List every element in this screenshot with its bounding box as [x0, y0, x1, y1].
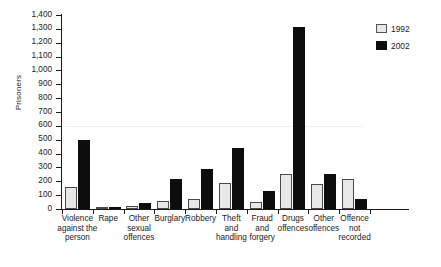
bar-group [308, 15, 339, 209]
bar-2002 [293, 27, 305, 209]
bar-group [339, 15, 370, 209]
category-label-line: forgery [240, 233, 285, 243]
bar-2002 [201, 169, 213, 209]
legend: 1992 2002 [376, 22, 410, 56]
bar-2002 [78, 140, 90, 209]
y-tick-label: 0 [0, 205, 52, 213]
legend-item-2002: 2002 [376, 39, 410, 52]
y-tick-label: 500 [0, 135, 52, 143]
bar-group [185, 15, 216, 209]
y-tick-label: 1,200 [0, 38, 52, 46]
y-tick-label: 900 [0, 80, 52, 88]
bar-1992 [126, 206, 138, 209]
legend-swatch-2002 [376, 41, 387, 50]
y-tick-label: 600 [0, 121, 52, 129]
bar-group [124, 15, 155, 209]
category-label: Offencenotrecorded [332, 214, 377, 243]
plot-area [62, 15, 370, 209]
y-tick-label: 800 [0, 94, 52, 102]
legend-item-1992: 1992 [376, 22, 410, 35]
category-label-line: Offence [332, 214, 377, 224]
bar-1992 [280, 174, 292, 209]
bar-1992 [96, 207, 108, 209]
bar-1992 [65, 187, 77, 209]
y-tick-label: 200 [0, 177, 52, 185]
legend-label-2002: 2002 [391, 41, 410, 51]
legend-swatch-1992 [376, 24, 387, 33]
category-label-line: not [332, 224, 377, 234]
bar-group [247, 15, 278, 209]
y-tick-label: 700 [0, 108, 52, 116]
bar-2002 [139, 203, 151, 209]
y-tick-label: 100 [0, 191, 52, 199]
bar-2002 [109, 207, 121, 209]
bar-1992 [311, 184, 323, 209]
bar-1992 [219, 183, 231, 209]
bar-2002 [232, 148, 244, 209]
bar-group [154, 15, 185, 209]
bar-2002 [324, 174, 336, 209]
y-tick-label: 1,100 [0, 52, 52, 60]
y-tick-label: 1,300 [0, 24, 52, 32]
y-tick-label: 400 [0, 149, 52, 157]
legend-label-1992: 1992 [391, 24, 410, 34]
bar-group [278, 15, 309, 209]
bar-1992 [188, 199, 200, 209]
y-tick-label: 1,000 [0, 66, 52, 74]
bar-1992 [157, 201, 169, 209]
category-label-line: against the [55, 224, 100, 234]
y-tick-label: 300 [0, 163, 52, 171]
bar-group [93, 15, 124, 209]
bar-2002 [355, 199, 367, 209]
bar-1992 [342, 179, 354, 209]
y-tick-label: 1,400 [0, 11, 52, 19]
bar-group [216, 15, 247, 209]
bar-chart: Prisoners 01002003004005006007008009001,… [0, 0, 441, 267]
category-label-line: sexual [117, 224, 162, 234]
bar-2002 [170, 179, 182, 209]
bar-1992 [250, 202, 262, 209]
bar-group [62, 15, 93, 209]
category-label-line: offences [117, 233, 162, 243]
bar-2002 [263, 191, 275, 209]
category-label-line: person [55, 233, 100, 243]
category-label-line: recorded [332, 233, 377, 243]
